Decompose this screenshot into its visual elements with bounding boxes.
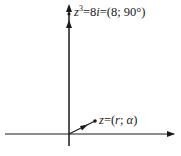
z-label-eq: =( [104, 113, 115, 127]
z-vector-arrowhead [80, 125, 88, 131]
z-cubed-label-polar: =(8; 90°) [100, 5, 146, 19]
z-cubed-arrowhead-top [66, 4, 72, 12]
real-axis-arrowhead [167, 131, 175, 137]
z-cubed-label: z3=8i=(8; 90°) [74, 5, 145, 19]
z-label-close: ) [133, 113, 137, 127]
z-cubed-point [67, 12, 70, 15]
z-cubed-arrowhead-mid [66, 20, 72, 28]
z-point [93, 119, 97, 123]
z-label: z=(r; α) [99, 114, 137, 127]
z-label-sep: ; [120, 113, 127, 127]
complex-plane-diagram [0, 0, 181, 156]
z-cubed-label-eq: =8 [83, 5, 96, 19]
